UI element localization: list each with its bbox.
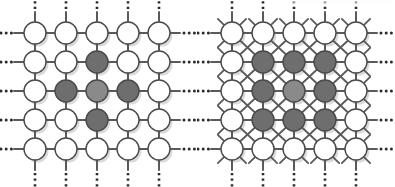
edge-stub-diagonal xyxy=(342,19,348,25)
lattice-node-empty[interactable] xyxy=(148,109,170,131)
ellipsis-right xyxy=(385,148,388,151)
lattice-node-selected[interactable] xyxy=(252,80,274,102)
ellipsis-left xyxy=(197,90,200,93)
ellipsis-right xyxy=(188,119,191,122)
edge-stub-diagonal xyxy=(218,77,224,83)
edge-stub-diagonal xyxy=(218,41,224,47)
lattice-node-selected[interactable] xyxy=(55,80,77,102)
ellipsis-left xyxy=(10,119,13,122)
ellipsis-right xyxy=(380,119,383,122)
lattice-node-empty[interactable] xyxy=(117,138,139,160)
lattice-node-empty[interactable] xyxy=(345,22,367,44)
lattice-node-selected[interactable] xyxy=(252,109,274,131)
lattice-node-empty[interactable] xyxy=(117,51,139,73)
edge-stub-diagonal xyxy=(218,157,224,163)
lattice-node-selected[interactable] xyxy=(86,109,108,131)
lattice-node-center[interactable] xyxy=(283,80,305,102)
lattice-node-selected[interactable] xyxy=(283,51,305,73)
edge-stub-diagonal xyxy=(302,19,308,25)
ellipsis-left xyxy=(207,32,210,35)
ellipsis-left xyxy=(202,119,205,122)
ellipsis-left xyxy=(197,32,200,35)
edge-stub-diagonal xyxy=(218,19,224,25)
edge-stub-diagonal xyxy=(311,19,317,25)
ellipsis-right xyxy=(380,61,383,64)
ellipsis-right xyxy=(390,90,393,93)
lattice-node-empty[interactable] xyxy=(86,22,108,44)
lattice-node-empty[interactable] xyxy=(345,138,367,160)
lattice-node-empty[interactable] xyxy=(24,51,46,73)
lattice-node-empty[interactable] xyxy=(86,138,108,160)
top-edge-artifact xyxy=(293,0,393,5)
lattice-node-empty[interactable] xyxy=(221,22,243,44)
lattice-node-empty[interactable] xyxy=(55,138,77,160)
ellipsis-left xyxy=(207,119,210,122)
ellipsis-left xyxy=(207,148,210,151)
lattice-node-empty[interactable] xyxy=(55,51,77,73)
edge-stub-diagonal xyxy=(249,19,255,25)
lattice-node-empty[interactable] xyxy=(345,80,367,102)
edge-stub-diagonal xyxy=(333,19,339,25)
ellipsis-left xyxy=(10,148,13,151)
edge-stub-diagonal xyxy=(311,157,317,163)
ellipsis-left xyxy=(0,61,3,64)
lattice-node-empty[interactable] xyxy=(221,138,243,160)
lattice-node-empty[interactable] xyxy=(24,80,46,102)
lattice-node-empty[interactable] xyxy=(24,109,46,131)
ellipsis-left xyxy=(0,90,3,93)
edge-stub-diagonal xyxy=(342,157,348,163)
ellipsis-right xyxy=(385,119,388,122)
lattice-node-empty[interactable] xyxy=(55,109,77,131)
lattice-node-selected[interactable] xyxy=(117,80,139,102)
lattice-node-empty[interactable] xyxy=(314,138,336,160)
lattice-node-empty[interactable] xyxy=(314,22,336,44)
lattice-node-empty[interactable] xyxy=(221,80,243,102)
lattice-node-empty[interactable] xyxy=(252,138,274,160)
ellipsis-right xyxy=(193,148,196,151)
ellipsis-right xyxy=(193,90,196,93)
lattice-node-empty[interactable] xyxy=(345,51,367,73)
lattice-node-empty[interactable] xyxy=(252,22,274,44)
lattice-node-selected[interactable] xyxy=(314,51,336,73)
lattice-node-empty[interactable] xyxy=(148,80,170,102)
edge-stub-diagonal xyxy=(240,19,246,25)
ellipsis-left xyxy=(202,61,205,64)
ellipsis-right xyxy=(188,61,191,64)
ellipsis-right xyxy=(385,61,388,64)
ellipsis-right xyxy=(193,119,196,122)
lattice-node-empty[interactable] xyxy=(283,22,305,44)
lattice-node-empty[interactable] xyxy=(24,138,46,160)
lattice-node-empty[interactable] xyxy=(148,138,170,160)
lattice-node-empty[interactable] xyxy=(117,22,139,44)
lattice-node-empty[interactable] xyxy=(221,51,243,73)
lattice-node-empty[interactable] xyxy=(148,51,170,73)
lattice-node-selected[interactable] xyxy=(252,51,274,73)
lattice-node-empty[interactable] xyxy=(117,109,139,131)
ellipsis-right xyxy=(193,32,196,35)
lattice-node-selected[interactable] xyxy=(314,80,336,102)
edge-stub-diagonal xyxy=(218,70,224,76)
ellipsis-right xyxy=(390,32,393,35)
ellipsis-right xyxy=(183,148,186,151)
lattice-node-empty[interactable] xyxy=(55,22,77,44)
lattice-node-selected[interactable] xyxy=(86,51,108,73)
figure-canvas xyxy=(0,0,395,187)
edge-stub-diagonal xyxy=(364,77,370,83)
lattice-node-selected[interactable] xyxy=(283,109,305,131)
lattice-node-empty[interactable] xyxy=(345,109,367,131)
edge-stub-diagonal xyxy=(280,19,286,25)
panel-von-neumann-lattice xyxy=(0,0,197,187)
edge-stub-diagonal xyxy=(364,106,370,112)
ellipsis-left xyxy=(197,148,200,151)
lattice-node-empty[interactable] xyxy=(283,138,305,160)
ellipsis-right xyxy=(183,90,186,93)
lattice-node-empty[interactable] xyxy=(148,22,170,44)
ellipsis-right xyxy=(188,90,191,93)
ellipsis-left xyxy=(207,90,210,93)
ellipsis-left xyxy=(10,90,13,93)
lattice-node-empty[interactable] xyxy=(221,109,243,131)
lattice-node-empty[interactable] xyxy=(24,22,46,44)
lattice-node-selected[interactable] xyxy=(314,109,336,131)
ellipsis-right xyxy=(380,90,383,93)
lattice-node-center[interactable] xyxy=(86,80,108,102)
